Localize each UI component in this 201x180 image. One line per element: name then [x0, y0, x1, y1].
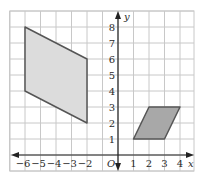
y-tick-label: 7 — [109, 38, 115, 49]
x-tick-label: −6 — [16, 158, 31, 169]
coordinate-plane: −6−5−4−3−2123412345678 x y O — [0, 0, 201, 180]
x-tick-label: 1 — [130, 158, 136, 169]
y-tick-label: 6 — [109, 54, 115, 65]
x-tick-label: −3 — [62, 158, 77, 169]
x-axis-label: x — [188, 158, 194, 169]
y-tick-label: 8 — [109, 22, 115, 33]
x-tick-label: −4 — [47, 158, 62, 169]
y-tick-label: 4 — [109, 86, 115, 97]
origin-label: O — [107, 158, 115, 169]
y-tick-label: 3 — [109, 102, 115, 113]
x-tick-label: 3 — [161, 158, 167, 169]
x-tick-label: −5 — [31, 158, 46, 169]
y-tick-label: 2 — [109, 118, 115, 129]
x-tick-label: −2 — [78, 158, 93, 169]
y-tick-label: 1 — [109, 134, 115, 145]
x-tick-label: 2 — [146, 158, 152, 169]
y-axis-label: y — [123, 11, 130, 22]
y-tick-label: 5 — [109, 70, 115, 81]
x-tick-label: 4 — [177, 158, 183, 169]
